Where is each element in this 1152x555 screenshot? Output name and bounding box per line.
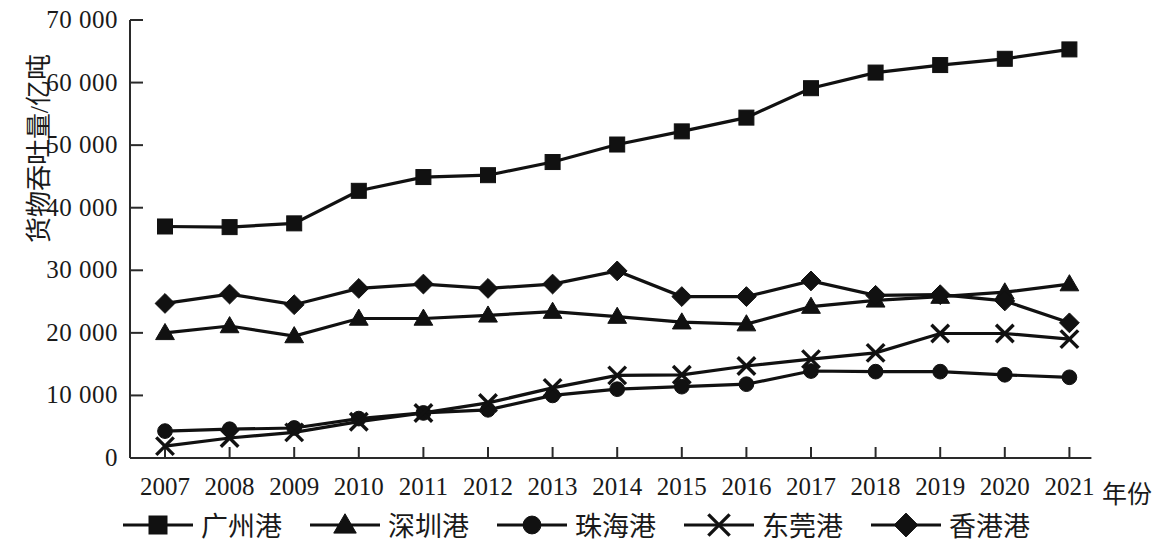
legend-marker [149,516,167,534]
data-point [155,294,175,314]
x-axis-tick-label: 2021 [1034,474,1104,499]
x-axis-tick-label: 2018 [841,474,911,499]
x-axis-tick-label: 2009 [259,474,329,499]
data-point [351,183,366,198]
y-axis-tick-label: 20 000 [8,320,118,345]
legend-item-广州港[interactable]: 广州港 [121,505,282,544]
data-point [1062,370,1077,385]
data-point [478,279,498,299]
data-point [607,261,627,281]
data-point [543,274,563,294]
y-axis-tick-label: 30 000 [8,257,118,282]
legend-item-珠海港[interactable]: 珠海港 [495,505,656,544]
y-axis-tick-label: 70 000 [8,7,118,32]
data-point [1060,275,1079,291]
data-point [997,51,1012,66]
x-axis-tick-label: 2011 [388,474,458,499]
x-axis-tick-label: 2016 [711,474,781,499]
data-point [672,287,692,307]
data-point [674,124,689,139]
data-point [801,271,821,291]
legend-item-香港港[interactable]: 香港港 [869,505,1030,544]
x-axis-tick-label: 2007 [130,474,200,499]
legend-label: 广州港 [201,505,282,544]
data-point [414,274,434,294]
data-point [804,81,819,96]
data-point [933,58,948,73]
x-axis-tick-label: 2014 [582,474,652,499]
y-axis-tick-label: 0 [8,445,118,470]
data-point [543,302,562,318]
legend-label: 深圳港 [388,505,469,544]
data-point [220,317,239,333]
x-axis-tick-label: 2013 [518,474,588,499]
legend-label: 东莞港 [762,505,843,544]
data-point [287,216,302,231]
data-point [610,137,625,152]
data-point [481,168,496,183]
x-axis-tick-label: 2020 [970,474,1040,499]
data-point [222,220,237,235]
data-point [610,382,625,397]
chart-legend: 广州港深圳港珠海港东莞港香港港 [0,505,1151,544]
series-1 [158,42,1077,235]
legend-marker [523,516,541,534]
chart-series [155,42,1079,455]
x-axis-tick-label: 2010 [324,474,394,499]
legend-marker-square-icon [121,510,195,540]
x-axis-tick-label: 2019 [905,474,975,499]
x-axis-tick-label: 2015 [647,474,717,499]
legend-label: 香港港 [949,505,1030,544]
legend-marker-cross-icon [682,510,756,540]
legend-label: 珠海港 [575,505,656,544]
legend-marker-circle-icon [495,510,569,540]
data-point [545,155,560,170]
x-axis-tick-label: 2008 [195,474,265,499]
x-axis-tick-label: 2012 [453,474,523,499]
data-point [1062,42,1077,57]
data-point [284,295,304,315]
data-point [416,170,431,185]
data-point [739,110,754,125]
y-axis-tick-label: 40 000 [8,195,118,220]
series-line-珠海港 [165,371,1069,431]
data-point [933,364,948,379]
y-axis-tick-label: 10 000 [8,382,118,407]
data-point [737,287,757,307]
data-point [158,424,173,439]
data-point [158,219,173,234]
data-point [997,367,1012,382]
legend-marker-diamond-icon [869,510,943,540]
legend-marker-triangle-icon [308,510,382,540]
data-point [868,65,883,80]
data-point [220,284,240,304]
x-axis-tick-label: 2017 [776,474,846,499]
y-axis-tick-label: 50 000 [8,132,118,157]
legend-marker [894,513,918,537]
legend-item-深圳港[interactable]: 深圳港 [308,505,469,544]
y-axis-tick-label: 60 000 [8,70,118,95]
data-point [349,279,369,299]
data-point [739,377,754,392]
data-point [868,364,883,379]
data-point [1060,313,1080,333]
legend-item-东莞港[interactable]: 东莞港 [682,505,843,544]
